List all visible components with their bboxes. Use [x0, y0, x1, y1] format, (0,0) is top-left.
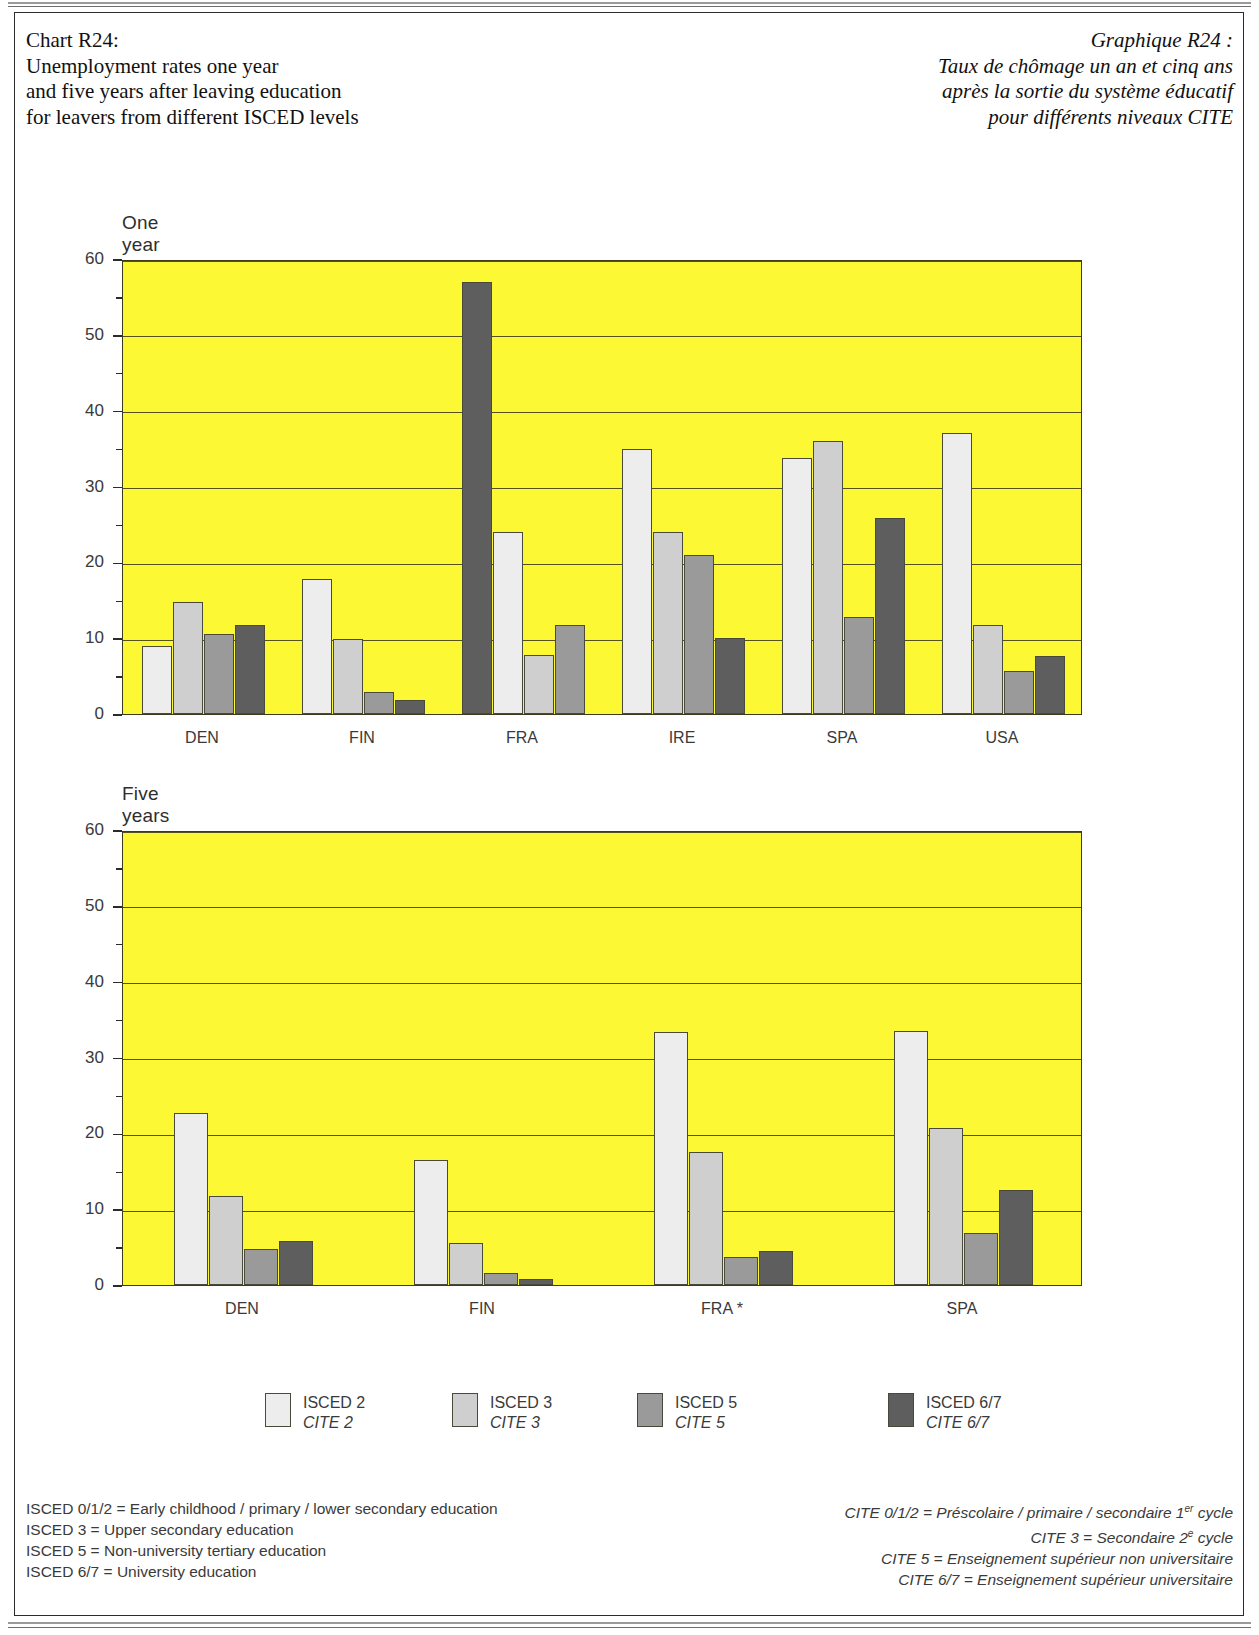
y-tick-label-five-years-after-50: 50: [66, 896, 104, 916]
legend-label-fr: CITE 6/7: [926, 1413, 1002, 1433]
page-top-rule-2: [8, 6, 1251, 7]
y-tick-minor-one-year-after-5: [116, 676, 122, 677]
gridline-one-year-after-10: [123, 640, 1081, 641]
bar-one-year-after-FRA-ISCED5: [555, 625, 585, 714]
x-category-label-five-years-after-FIN: FIN: [422, 1300, 542, 1318]
bar-one-year-after-FIN-ISCED3: [333, 639, 363, 714]
gridline-five-years-after-60: [123, 832, 1081, 833]
y-tick-minor-one-year-after-15: [116, 601, 122, 602]
bar-five-years-after-DEN-ISCED5: [244, 1249, 278, 1285]
footnote-fr-1: CITE 0/1/2 = Préscolaire / primaire / se…: [845, 1498, 1233, 1523]
y-tick-one-year-after-10: [113, 638, 122, 639]
legend-item-isced-2[interactable]: ISCED 2CITE 2: [265, 1393, 365, 1433]
gridline-five-years-after-50: [123, 907, 1081, 908]
x-category-label-one-year-after-SPA: SPA: [782, 729, 902, 747]
bar-one-year-after-USA-ISCED3: [973, 625, 1003, 714]
y-tick-label-one-year-after-40: 40: [66, 401, 104, 421]
footnote-fr-3: CITE 5 = Enseignement supérieur non univ…: [845, 1548, 1233, 1569]
chart-title-en-line-1: Chart R24:: [26, 28, 586, 54]
y-tick-minor-five-years-after-15: [116, 1172, 122, 1173]
y-tick-label-five-years-after-30: 30: [66, 1048, 104, 1068]
y-tick-five-years-after-60: [113, 830, 122, 831]
bar-one-year-after-IRE-ISCED2: [622, 449, 652, 714]
footnote-en-3: ISCED 5 = Non-university tertiary educat…: [26, 1540, 498, 1561]
bar-one-year-after-SPA-ISCED5: [844, 617, 874, 714]
y-tick-label-five-years-after-40: 40: [66, 972, 104, 992]
y-tick-label-one-year-after-60: 60: [66, 249, 104, 269]
chart-legend: ISCED 2CITE 2ISCED 3CITE 3ISCED 5CITE 5I…: [0, 1393, 1259, 1453]
footnote-en-2: ISCED 3 = Upper secondary education: [26, 1519, 498, 1540]
bar-one-year-after-IRE-ISCED67: [715, 638, 745, 714]
legend-label-fr: CITE 2: [303, 1413, 365, 1433]
bar-five-years-after-FIN-ISCED2: [414, 1160, 448, 1285]
plot-area-five-years-after: [122, 831, 1082, 1286]
gridline-one-year-after-20: [123, 564, 1081, 565]
legend-label-en: ISCED 3: [490, 1394, 552, 1411]
y-tick-one-year-after-60: [113, 259, 122, 260]
y-tick-minor-five-years-after-45: [116, 944, 122, 945]
legend-swatch-isced-3: [452, 1393, 478, 1427]
y-tick-five-years-after-20: [113, 1134, 122, 1135]
y-tick-one-year-after-30: [113, 487, 122, 488]
legend-label-en: ISCED 2: [303, 1394, 365, 1411]
legend-label-isced-5: ISCED 5CITE 5: [675, 1393, 737, 1433]
bar-five-years-after-DEN-ISCED67: [279, 1241, 313, 1285]
page-top-rule: [8, 2, 1251, 4]
x-category-label-one-year-after-IRE: IRE: [622, 729, 742, 747]
legend-item-isced-5[interactable]: ISCED 5CITE 5: [637, 1393, 737, 1433]
bar-five-years-after-SPA-ISCED5: [964, 1233, 998, 1285]
legend-swatch-isced-6-7: [888, 1393, 914, 1427]
bar-five-years-after-FRA-ISCED2: [654, 1032, 688, 1285]
y-tick-label-one-year-after-0: 0: [66, 704, 104, 724]
x-category-label-five-years-after-SPA: SPA: [902, 1300, 1022, 1318]
y-tick-minor-five-years-after-55: [116, 868, 122, 869]
y-tick-label-five-years-after-20: 20: [66, 1123, 104, 1143]
bar-one-year-after-DEN-ISCED3: [173, 602, 203, 714]
legend-swatch-isced-5: [637, 1393, 663, 1427]
chart-title-en-line-2: Unemployment rates one year: [26, 54, 586, 80]
footnotes-french: CITE 0/1/2 = Préscolaire / primaire / se…: [845, 1498, 1233, 1590]
bar-five-years-after-FRA-ISCED67: [759, 1251, 793, 1285]
chart-title-fr-line-3: après la sortie du système éducatif: [673, 79, 1233, 105]
y-tick-label-five-years-after-60: 60: [66, 820, 104, 840]
y-tick-one-year-after-40: [113, 411, 122, 412]
bar-one-year-after-FIN-ISCED2: [302, 579, 332, 714]
y-tick-minor-one-year-after-25: [116, 525, 122, 526]
bar-one-year-after-SPA-ISCED3: [813, 441, 843, 714]
legend-label-isced-2: ISCED 2CITE 2: [303, 1393, 365, 1433]
y-tick-five-years-after-40: [113, 982, 122, 983]
legend-item-isced-6-7[interactable]: ISCED 6/7CITE 6/7: [888, 1393, 1002, 1433]
legend-label-isced-3: ISCED 3CITE 3: [490, 1393, 552, 1433]
y-tick-five-years-after-30: [113, 1058, 122, 1059]
chart-frame: [14, 12, 1244, 1616]
chart-title-fr-line-4: pour différents niveaux CITE: [673, 105, 1233, 131]
legend-label-fr: CITE 5: [675, 1413, 737, 1433]
bar-one-year-after-DEN-ISCED2: [142, 646, 172, 714]
legend-item-isced-3[interactable]: ISCED 3CITE 3: [452, 1393, 552, 1433]
plot-area-one-year-after: [122, 260, 1082, 715]
chart-title-en-line-3: and five years after leaving education: [26, 79, 586, 105]
legend-label-fr: CITE 3: [490, 1413, 552, 1433]
x-category-label-one-year-after-FIN: FIN: [302, 729, 422, 747]
bar-one-year-after-IRE-ISCED5: [684, 555, 714, 714]
bar-one-year-after-DEN-ISCED5: [204, 634, 234, 714]
x-category-label-one-year-after-USA: USA: [942, 729, 1062, 747]
gridline-one-year-after-30: [123, 488, 1081, 489]
footnote-en-4: ISCED 6/7 = University education: [26, 1561, 498, 1582]
legend-label-isced-6-7: ISCED 6/7CITE 6/7: [926, 1393, 1002, 1433]
bar-one-year-after-USA-ISCED2: [942, 433, 972, 714]
page-bottom-rule-2: [8, 1627, 1251, 1628]
y-tick-label-one-year-after-50: 50: [66, 325, 104, 345]
y-tick-label-one-year-after-30: 30: [66, 477, 104, 497]
bar-one-year-after-USA-ISCED67: [1035, 656, 1065, 714]
bar-one-year-after-USA-ISCED5: [1004, 671, 1034, 714]
chart-title-french: Graphique R24 : Taux de chômage un an et…: [673, 28, 1233, 130]
y-tick-minor-five-years-after-35: [116, 1020, 122, 1021]
bar-five-years-after-DEN-ISCED3: [209, 1196, 243, 1285]
y-tick-five-years-after-0: [113, 1285, 122, 1286]
y-tick-one-year-after-20: [113, 563, 122, 564]
x-category-label-one-year-after-DEN: DEN: [142, 729, 262, 747]
chart-title-fr-line-2: Taux de chômage un an et cinq ans: [673, 54, 1233, 80]
bar-five-years-after-SPA-ISCED3: [929, 1128, 963, 1285]
bar-five-years-after-SPA-ISCED2: [894, 1031, 928, 1285]
